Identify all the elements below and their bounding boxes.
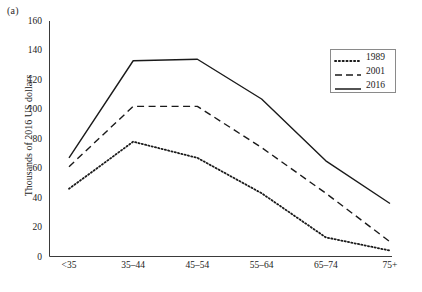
legend-item-2016[interactable]: 2016: [331, 78, 395, 92]
legend-swatch-dotted-icon: [334, 52, 362, 62]
legend-item-1989[interactable]: 1989: [331, 50, 395, 64]
x-axis-tick-label: 55–64: [232, 260, 292, 270]
chart-figure: (a) Thousands of 2016 US dollars 0204060…: [0, 0, 422, 292]
legend-label: 2001: [362, 66, 385, 76]
x-axis-tick-label: 35–44: [103, 260, 163, 270]
legend-swatch-solid-icon: [334, 80, 362, 90]
x-axis-tick-label: 75+: [360, 260, 420, 270]
legend-label: 2016: [362, 80, 385, 90]
plot-area: [0, 0, 422, 292]
series-line-2001: [69, 106, 390, 241]
legend-label: 1989: [362, 52, 385, 62]
x-axis-tick-label: 65–74: [296, 260, 356, 270]
x-axis-tick-label: <35: [39, 260, 99, 270]
legend-item-2001[interactable]: 2001: [331, 64, 395, 78]
legend-swatch-dashed-icon: [334, 66, 362, 76]
series-line-1989: [69, 142, 390, 251]
legend: 198920012016: [330, 49, 396, 93]
x-axis-tick-label: 45–54: [167, 260, 227, 270]
